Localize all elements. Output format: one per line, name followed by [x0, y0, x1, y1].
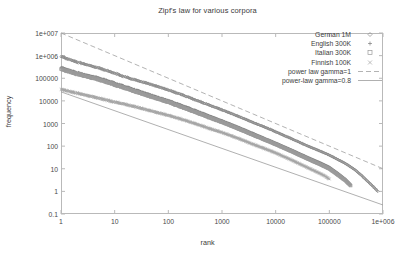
- chart-legend: German 1MEnglish 300KItalian 300KFinnish…: [231, 30, 383, 85]
- y-tick-label: 0.1: [49, 211, 58, 218]
- y-tick-label: 1: [54, 188, 58, 195]
- legend-key-diamond-icon: [357, 30, 383, 39]
- y-axis-tick-labels: 0.11101001000100001000001e+0061e+007: [0, 33, 58, 214]
- legend-item-power-law-gamma-0-8[interactable]: power-law gamma=0.8: [231, 76, 383, 85]
- x-axis-tick-labels: 1101001000100001000001e+006: [61, 218, 383, 230]
- chart-title: Zipf's law for various corpora: [0, 6, 415, 15]
- legend-item-finnish-100k[interactable]: Finnish 100K: [231, 58, 383, 67]
- x-tick-label: 10000: [266, 218, 285, 225]
- legend-key-plus-icon: [357, 39, 383, 48]
- y-tick-label: 100000: [35, 75, 58, 82]
- legend-key-solid-line-icon: [357, 76, 383, 85]
- x-tick-label: 1000: [214, 218, 229, 225]
- x-tick-label: 1: [59, 218, 63, 225]
- legend-item-label: Finnish 100K: [311, 59, 357, 66]
- y-tick-label: 1000: [43, 120, 58, 127]
- x-axis-title: rank: [0, 238, 415, 247]
- legend-item-label: English 300K: [311, 40, 357, 47]
- legend-item-label: power law gamma=1: [288, 68, 357, 75]
- chart-figure: Zipf's law for various corpora frequency…: [0, 0, 415, 262]
- y-tick-label: 1e+007: [35, 30, 58, 37]
- legend-item-italian-300k[interactable]: Italian 300K: [231, 48, 383, 57]
- legend-item-label: Italian 300K: [315, 49, 357, 56]
- x-tick-label: 10: [111, 218, 119, 225]
- legend-item-power-law-gamma-1[interactable]: power law gamma=1: [231, 67, 383, 76]
- x-tick-label: 100: [163, 218, 174, 225]
- y-tick-label: 10000: [39, 97, 58, 104]
- series-finnish-100k: [60, 88, 331, 181]
- legend-item-english-300k[interactable]: English 300K: [231, 39, 383, 48]
- legend-key-square-icon: [357, 48, 383, 57]
- legend-item-german-1m[interactable]: German 1M: [231, 30, 383, 39]
- legend-key-dashed-line-icon: [357, 67, 383, 76]
- y-tick-label: 1e+006: [35, 52, 58, 59]
- y-tick-label: 100: [47, 143, 58, 150]
- legend-item-label: power-law gamma=0.8: [282, 77, 357, 84]
- legend-key-cross-icon: [357, 58, 383, 67]
- legend-item-label: German 1M: [315, 31, 357, 38]
- y-tick-label: 10: [50, 165, 58, 172]
- x-tick-label: 1e+006: [372, 218, 395, 225]
- x-tick-label: 100000: [318, 218, 341, 225]
